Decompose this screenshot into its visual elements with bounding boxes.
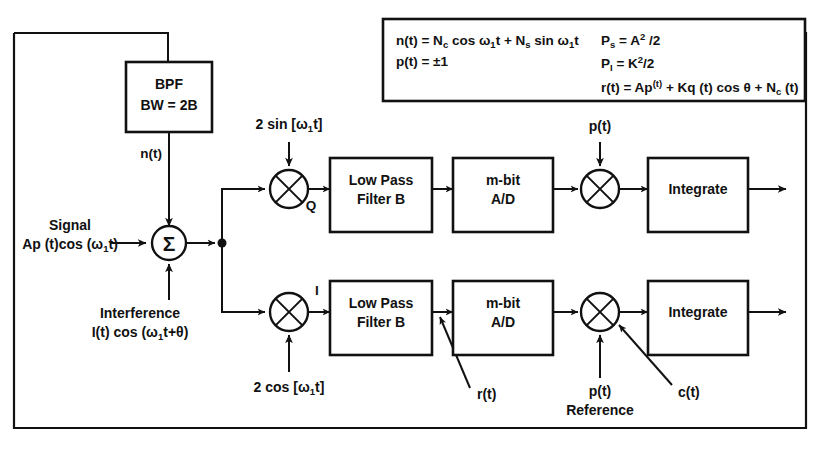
block-bpf-line2: BW = 2B bbox=[140, 97, 197, 113]
block-lpf-q-line2: Filter B bbox=[357, 191, 405, 207]
block-lpf-i-line1: Low Pass bbox=[349, 295, 414, 311]
equation-pn-code: p(t) = ±1 bbox=[396, 54, 449, 69]
block-lpf-i-line2: Filter B bbox=[357, 314, 405, 330]
summing-junction-symbol: Σ bbox=[163, 232, 176, 255]
equation-noise: n(t) = Nc cos ω1t + Ns sin ω1t bbox=[396, 33, 579, 50]
label-c-of-t: c(t) bbox=[678, 384, 700, 400]
split-to-i-branch-wire bbox=[222, 243, 265, 312]
block-bpf-line1: BPF bbox=[155, 76, 183, 92]
equation-signal-power: Ps = A2 /2 bbox=[601, 31, 660, 50]
label-pn-reference-line1: p(t) bbox=[589, 383, 612, 399]
label-branch-i: I bbox=[315, 283, 319, 298]
diagram-canvas: n(t) = Nc cos ω1t + Ns sin ω1t p(t) = ±1… bbox=[0, 0, 822, 451]
block-ad-i-line1: m-bit bbox=[486, 295, 521, 311]
equation-received: r(t) = Ap(t) + Kq (t) cos θ + Nc (t) bbox=[601, 78, 799, 97]
label-signal-expression: Ap (t)cos (ω1t) bbox=[22, 236, 118, 254]
label-noise-nt: n(t) bbox=[140, 146, 162, 161]
label-interference-expression: I(t) cos (ω1t+θ) bbox=[92, 324, 189, 342]
label-lo-sin: 2 sin [ω1t] bbox=[256, 116, 323, 134]
block-diagram-figure: n(t) = Nc cos ω1t + Ns sin ω1t p(t) = ±1… bbox=[0, 0, 822, 451]
block-lpf-q-line1: Low Pass bbox=[349, 172, 414, 188]
block-ad-i-line2: A/D bbox=[491, 314, 515, 330]
equation-interference-power: PI = K2/2 bbox=[601, 54, 654, 73]
label-signal-title: Signal bbox=[49, 217, 91, 233]
label-branch-q: Q bbox=[306, 198, 317, 213]
label-lo-cos: 2 cos [ω1t] bbox=[254, 379, 325, 397]
label-r-of-t: r(t) bbox=[477, 386, 496, 402]
split-to-q-branch-wire bbox=[222, 189, 265, 243]
label-pn-reference-line2: Reference bbox=[566, 402, 634, 418]
block-ad-q-line2: A/D bbox=[491, 191, 515, 207]
block-integrate-q-label: Integrate bbox=[668, 181, 727, 197]
noise-source-wire bbox=[14, 33, 168, 62]
label-interference-title: Interference bbox=[100, 305, 180, 321]
block-integrate-i-label: Integrate bbox=[668, 304, 727, 320]
block-ad-q-line1: m-bit bbox=[486, 172, 521, 188]
label-pn-top: p(t) bbox=[589, 118, 612, 134]
